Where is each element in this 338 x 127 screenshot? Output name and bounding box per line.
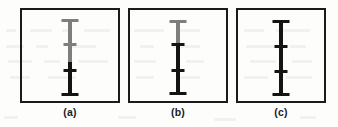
error-bar-c: [272, 10, 290, 105]
error-bar-b: [169, 10, 187, 105]
error-bar-a-upper-tick: [64, 43, 77, 46]
error-bar-c-bottom-cap: [273, 93, 290, 96]
error-bar-c-upper-tick: [275, 45, 288, 48]
error-bar-b-bottom-cap: [170, 92, 187, 95]
error-bar-a-bottom-cap: [62, 93, 79, 96]
three-panel-error-bar-figure: (a) (b) (c): [0, 0, 338, 127]
error-bar-b-lower-tick: [172, 69, 185, 72]
panel-b: [128, 8, 228, 103]
error-bar-a-lower-segment: [68, 62, 72, 96]
panel-a: [20, 8, 120, 103]
error-bar-a-lower-tick: [64, 69, 77, 72]
error-bar-c-lower-tick: [275, 70, 288, 73]
error-bar-a-upper-segment: [68, 19, 72, 62]
panel-c: [236, 8, 326, 103]
panel-label-a: (a): [20, 106, 120, 119]
panel-label-c: (c): [236, 106, 326, 119]
error-bar-c-segment: [279, 20, 283, 96]
error-bar-b-upper-segment: [176, 20, 180, 45]
error-bar-a: [61, 10, 79, 105]
panel-label-b: (b): [128, 106, 228, 119]
